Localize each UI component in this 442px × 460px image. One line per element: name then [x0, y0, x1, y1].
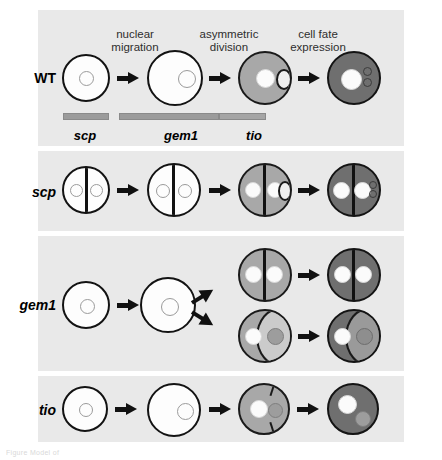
cell-wt-stage4: [327, 51, 381, 105]
nucleus-tio-stage3-left: [250, 400, 268, 418]
cell-scp-stage1: [62, 166, 110, 214]
nucleus-gem1-lower-stage3-right: [267, 328, 284, 345]
nucleus-tio-stage3-right: [268, 403, 283, 418]
arrow-scp-3: [298, 184, 320, 196]
arrow-wt-1: [117, 72, 139, 84]
nucleus-gem1-lower-stage4-left: [334, 328, 351, 345]
arrow-tio-2: [209, 403, 231, 415]
nucleus-scp-stage1-right: [90, 184, 103, 197]
arrow-scp-2: [209, 184, 231, 196]
cell-gem1-lower-stage3: [238, 309, 292, 363]
nucleus-gem1-stage2: [161, 298, 179, 316]
row-label-wt: WT: [8, 70, 56, 86]
nucleus-gem1-upper-stage3-right: [266, 266, 283, 283]
nucleus-tio-stage4-left: [338, 395, 357, 414]
nucleus-wt-stage2: [178, 70, 196, 88]
furrow-tio-bottom: [269, 422, 274, 433]
nucleus-scp-stage1-left: [70, 184, 83, 197]
column-header-asymmetric-division: asymmetric division: [188, 28, 270, 53]
arrow-gem1-1: [117, 299, 139, 311]
micro-daughter-scp-a: [369, 181, 377, 189]
furrow-tio-top: [270, 386, 275, 396]
nucleus-wt-stage4: [341, 69, 362, 90]
expression-bar-tio: [219, 113, 266, 120]
nucleus-scp-stage3-left: [245, 182, 261, 198]
figure-canvas: nuclear migration asymmetric division ce…: [0, 0, 442, 460]
nucleus-gem1-lower-stage3-left: [245, 328, 262, 345]
arrow-gem1-lower-3: [298, 330, 320, 342]
nucleus-gem1-lower-stage4-right: [356, 328, 373, 345]
cell-scp-stage4: [327, 163, 381, 217]
cell-tio-stage3: [238, 383, 290, 435]
gene-label-scp: scp: [52, 128, 118, 143]
expression-bar-scp: [63, 113, 109, 120]
cell-tio-stage4: [327, 383, 379, 435]
arrow-tio-1: [115, 403, 137, 415]
nucleus-wt-stage1: [79, 71, 94, 86]
nucleus-scp-stage2-left: [156, 184, 170, 198]
nucleus-gem1-upper-stage4-left: [334, 266, 351, 283]
row-label-gem1: gem1: [4, 297, 56, 313]
daughter-cell-scp-stage3: [278, 181, 292, 201]
septum-scp-stage3: [263, 163, 266, 217]
cell-gem1-upper-stage3: [238, 248, 292, 302]
row-label-scp: scp: [8, 184, 56, 200]
cell-gem1-upper-stage4: [327, 248, 381, 302]
nucleus-tio-stage4-right: [355, 411, 371, 427]
arrow-scp-1: [117, 184, 139, 196]
gene-label-tio: tio: [226, 128, 282, 143]
cell-tio-stage2: [147, 383, 201, 437]
cell-wt-stage2: [147, 50, 203, 106]
arrow-gem1-upper-3: [298, 269, 320, 281]
nucleus-wt-stage3: [256, 69, 275, 88]
nucleus-scp-stage4-left: [333, 182, 350, 199]
arrow-wt-3: [298, 72, 320, 84]
arrow-wt-2: [209, 72, 231, 84]
arrow-tio-3: [297, 403, 319, 415]
nucleus-gem1-upper-stage3-left: [245, 266, 262, 283]
figure-caption-fragment: Figure Model of: [6, 449, 206, 458]
nucleus-gem1-stage1: [80, 299, 95, 314]
cell-wt-stage3: [238, 51, 292, 105]
column-header-cell-fate-expression: cell fate expression: [278, 28, 358, 53]
nucleus-tio-stage1: [79, 403, 93, 417]
septum-scp-stage1: [85, 166, 88, 214]
column-header-nuclear-migration: nuclear migration: [96, 28, 174, 53]
cell-gem1-stage2: [140, 277, 196, 333]
cell-gem1-lower-stage4: [327, 309, 381, 363]
micro-daughter-scp-b: [369, 190, 377, 198]
daughter-cell-wt-stage3: [276, 69, 292, 90]
micro-daughter-wt-b: [363, 78, 372, 87]
septum-scp-stage2: [172, 163, 175, 217]
nucleus-tio-stage2: [177, 403, 194, 420]
cell-wt-stage1: [62, 54, 110, 102]
cell-scp-stage2: [147, 163, 201, 217]
nucleus-scp-stage2-right: [178, 184, 192, 198]
gene-label-gem1: gem1: [148, 128, 214, 143]
row-label-tio: tio: [8, 402, 56, 418]
cell-scp-stage3: [238, 163, 292, 217]
expression-bar-gem1: [119, 113, 219, 120]
cell-gem1-stage1: [62, 281, 110, 329]
cell-tio-stage1: [62, 386, 108, 432]
nucleus-gem1-upper-stage4-right: [355, 266, 372, 283]
micro-daughter-wt-a: [363, 67, 372, 76]
